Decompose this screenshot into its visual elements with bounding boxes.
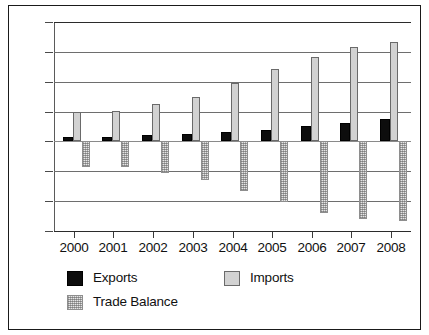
bar-group-2000 bbox=[54, 22, 94, 231]
plot-area bbox=[54, 22, 411, 231]
x-tick-2007 bbox=[351, 232, 352, 238]
bar-group-2005 bbox=[252, 22, 292, 231]
bar-exports-2004 bbox=[221, 132, 231, 141]
bar-group-2002 bbox=[133, 22, 173, 231]
y-tick-0 bbox=[45, 141, 53, 142]
x-tick-2002 bbox=[153, 232, 154, 238]
legend-swatch-imports-icon bbox=[224, 271, 240, 286]
bar-imports-2002 bbox=[152, 104, 160, 142]
legend-swatch-balance-icon bbox=[67, 295, 83, 310]
x-tick-2005 bbox=[272, 232, 273, 238]
bar-exports-2003 bbox=[182, 134, 192, 142]
plot-inner bbox=[54, 22, 411, 231]
bar-exports-2001 bbox=[102, 137, 112, 142]
x-tick-2003 bbox=[193, 232, 194, 238]
bar-trade-balance-2002 bbox=[161, 141, 169, 173]
bar-imports-2001 bbox=[112, 111, 120, 141]
bar-imports-2005 bbox=[271, 69, 279, 141]
x-axis-label-2008: 2008 bbox=[368, 240, 414, 255]
bar-exports-2006 bbox=[301, 126, 311, 141]
y-tick--100 bbox=[45, 171, 53, 172]
x-tick-2008 bbox=[391, 232, 392, 238]
bar-imports-2008 bbox=[390, 42, 398, 141]
bar-trade-balance-2008 bbox=[399, 141, 407, 221]
bar-trade-balance-2001 bbox=[121, 141, 129, 167]
bar-exports-2008 bbox=[380, 119, 390, 142]
bar-imports-2000 bbox=[73, 112, 81, 142]
legend-swatch-exports-icon bbox=[67, 271, 83, 286]
legend-label-exports: Exports bbox=[93, 270, 137, 285]
y-tick-100 bbox=[45, 112, 53, 113]
chart-legend: ExportsImportsTrade Balance bbox=[9, 268, 422, 326]
bar-trade-balance-2004 bbox=[240, 141, 248, 191]
bar-exports-2002 bbox=[142, 135, 152, 141]
bar-group-2006 bbox=[292, 22, 332, 231]
bar-group-2003 bbox=[173, 22, 213, 231]
bar-trade-balance-2003 bbox=[201, 141, 209, 180]
bar-group-2001 bbox=[94, 22, 134, 231]
bar-imports-2006 bbox=[311, 57, 319, 141]
y-tick-300 bbox=[45, 52, 53, 53]
bar-group-2007 bbox=[332, 22, 372, 231]
legend-label-balance: Trade Balance bbox=[93, 294, 178, 309]
legend-label-imports: Imports bbox=[250, 270, 294, 285]
bar-exports-2005 bbox=[261, 130, 271, 141]
bar-exports-2000 bbox=[63, 137, 73, 141]
bar-exports-2007 bbox=[340, 123, 350, 142]
x-tick-2000 bbox=[74, 232, 75, 238]
bar-group-2008 bbox=[371, 22, 411, 231]
bar-imports-2007 bbox=[350, 47, 358, 141]
y-tick--200 bbox=[45, 201, 53, 202]
bar-trade-balance-2000 bbox=[82, 141, 90, 166]
bar-trade-balance-2006 bbox=[320, 141, 328, 212]
y-tick--300 bbox=[45, 231, 53, 232]
y-tick-400 bbox=[45, 22, 53, 23]
bar-group-2004 bbox=[213, 22, 253, 231]
bar-trade-balance-2005 bbox=[280, 141, 288, 202]
bar-imports-2003 bbox=[192, 97, 200, 142]
y-tick-200 bbox=[45, 82, 53, 83]
x-tick-2004 bbox=[233, 232, 234, 238]
bar-imports-2004 bbox=[231, 83, 239, 142]
bar-trade-balance-2007 bbox=[359, 141, 367, 219]
x-tick-2001 bbox=[113, 232, 114, 238]
chart-figure: 4003002001000-100-200-300 20002001200220… bbox=[8, 5, 421, 330]
x-tick-2006 bbox=[312, 232, 313, 238]
